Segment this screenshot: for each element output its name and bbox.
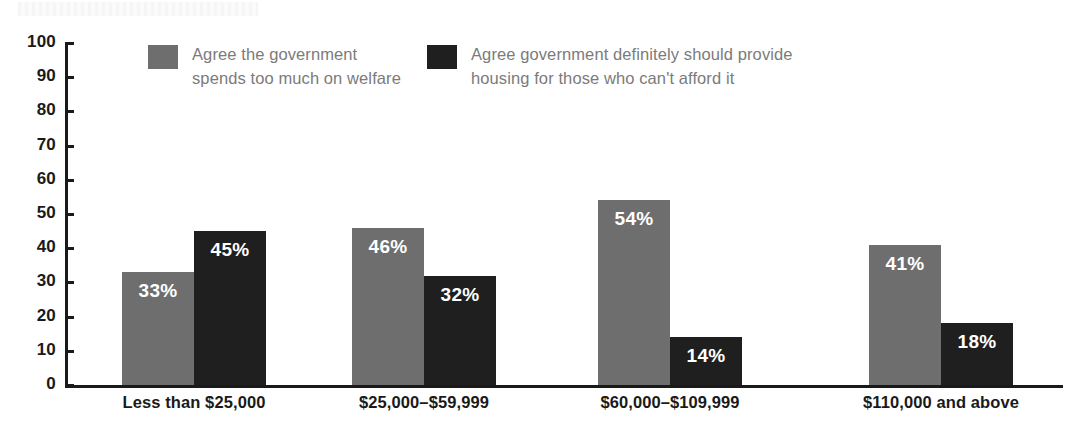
legend-swatch-icon: [148, 45, 178, 69]
bar-value-label: 46%: [352, 236, 424, 258]
bar: 54%: [598, 200, 670, 385]
y-axis-label: 30: [0, 271, 56, 291]
x-axis-category-label: Less than $25,000: [82, 393, 306, 412]
legend-item-housing: Agree government definitely should provi…: [427, 43, 793, 91]
x-axis-category-label: $25,000–$59,999: [312, 393, 536, 412]
x-axis-category-label: $60,000–$109,999: [558, 393, 782, 412]
bar-value-label: 33%: [122, 280, 194, 302]
bar-chart: 1009080706050403020100 Agree the governm…: [0, 0, 1088, 438]
bar: 33%: [122, 272, 194, 385]
y-axis-label: 10: [0, 340, 56, 360]
y-axis-label: 90: [0, 66, 56, 86]
y-axis-tick: [65, 247, 74, 250]
bar-value-label: 41%: [869, 253, 941, 275]
bar: 45%: [194, 231, 266, 385]
y-axis-tick: [65, 76, 74, 79]
x-axis-category-label: $110,000 and above: [829, 393, 1053, 412]
y-axis-label: 50: [0, 203, 56, 223]
y-axis-tick: [65, 316, 74, 319]
y-axis-label: 40: [0, 237, 56, 257]
y-axis-label: 60: [0, 169, 56, 189]
y-axis-tick: [65, 281, 74, 284]
scan-artifact-strip: [18, 2, 258, 16]
bar-value-label: 32%: [424, 284, 496, 306]
y-axis-label: 80: [0, 100, 56, 120]
y-axis-tick: [65, 179, 74, 182]
y-axis-tick: [65, 350, 74, 353]
bar-value-label: 18%: [941, 331, 1013, 353]
legend-swatch-icon: [427, 45, 457, 69]
bar: 41%: [869, 245, 941, 385]
y-axis-label: 100: [0, 32, 56, 52]
bar: 32%: [424, 276, 496, 385]
y-axis-tick: [65, 145, 74, 148]
y-axis-tick: [65, 110, 74, 113]
bar: 14%: [670, 337, 742, 385]
legend-label: Agree the government spends too much on …: [192, 43, 401, 91]
legend-item-welfare: Agree the government spends too much on …: [148, 43, 427, 91]
bar-value-label: 14%: [670, 345, 742, 367]
chart-legend: Agree the government spends too much on …: [148, 43, 793, 91]
x-axis-line: [65, 385, 1063, 388]
y-axis-label: 70: [0, 135, 56, 155]
y-axis-tick: [65, 213, 74, 216]
y-axis-tick: [65, 42, 74, 45]
legend-label: Agree government definitely should provi…: [471, 43, 793, 91]
bar: 46%: [352, 228, 424, 385]
bar-value-label: 45%: [194, 239, 266, 261]
bar-value-label: 54%: [598, 208, 670, 230]
y-axis-label: 20: [0, 306, 56, 326]
bar: 18%: [941, 323, 1013, 385]
y-axis-label: 0: [0, 374, 56, 394]
